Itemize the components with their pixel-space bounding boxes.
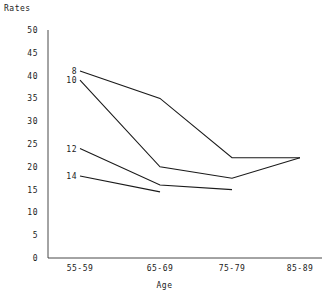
x-axis-title: Age xyxy=(0,281,329,290)
data-series-lines xyxy=(80,71,300,192)
series-line-8 xyxy=(80,71,300,158)
plot-area xyxy=(0,0,329,299)
line-chart: Rates 05101520253035404550 55-5965-6975-… xyxy=(0,0,329,299)
series-line-14 xyxy=(80,176,160,192)
series-line-12 xyxy=(80,149,232,190)
